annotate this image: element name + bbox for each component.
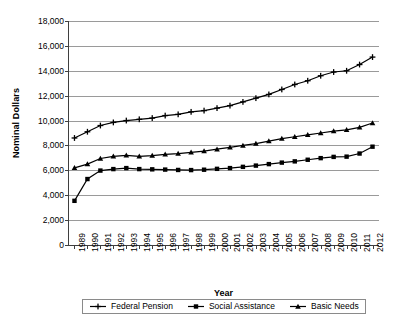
chart-figure: Nominal Dollars 18,00016,00014,00012,000… <box>0 0 397 318</box>
x-tick-mark <box>113 245 114 249</box>
x-tick-label: 1990 <box>91 233 100 252</box>
x-tick-mark <box>165 245 166 249</box>
data-point-marker <box>370 144 374 148</box>
y-tick-label: 14,000 <box>4 67 64 76</box>
data-point-marker <box>279 87 285 93</box>
x-tick-mark <box>295 245 296 249</box>
x-tick-label: 1995 <box>156 233 165 252</box>
data-point-marker <box>189 168 193 172</box>
x-tick-mark <box>334 245 335 249</box>
x-tick-label: 2000 <box>221 233 230 252</box>
data-point-marker <box>318 73 324 79</box>
x-tick-mark <box>360 245 361 249</box>
series-line <box>74 123 372 168</box>
legend-label: Federal Pension <box>111 302 173 311</box>
data-series-layer <box>68 21 379 245</box>
y-tick-label: 0 <box>4 241 64 250</box>
data-point-marker <box>293 159 297 163</box>
data-point-marker <box>175 111 181 117</box>
x-tick-label: 1996 <box>169 233 178 252</box>
legend-item-basic-needs[interactable]: Basic Needs <box>289 302 359 311</box>
data-point-marker <box>215 167 219 171</box>
data-point-marker <box>85 177 89 181</box>
y-tick-label: 18,000 <box>4 17 64 26</box>
legend-item-social-assistance[interactable]: Social Assistance <box>187 302 275 311</box>
x-tick-label: 2011 <box>363 234 372 252</box>
x-tick-label: 2004 <box>272 233 281 252</box>
series-line <box>74 57 372 138</box>
series-federal-pension <box>72 54 376 141</box>
data-point-marker <box>292 82 298 88</box>
x-tick-mark <box>308 245 309 249</box>
y-tick-label: 6,000 <box>4 166 64 175</box>
x-tick-label: 2006 <box>298 233 307 252</box>
x-tick-label: 2002 <box>246 233 255 252</box>
data-point-marker <box>318 156 322 160</box>
data-point-marker <box>163 167 167 171</box>
x-tick-mark <box>100 245 101 249</box>
x-tick-mark <box>373 245 374 249</box>
x-tick-label: 1999 <box>208 233 217 252</box>
data-point-marker <box>331 69 337 75</box>
series-line <box>74 147 372 201</box>
chart-legend: Federal PensionSocial AssistanceBasic Ne… <box>82 299 366 314</box>
data-point-marker <box>124 166 128 170</box>
data-point-marker <box>110 120 116 126</box>
data-point-marker <box>85 129 91 135</box>
x-tick-label: 2012 <box>376 233 385 252</box>
y-tick-label: 12,000 <box>4 92 64 101</box>
x-tick-mark <box>321 245 322 249</box>
x-tick-mark <box>282 245 283 249</box>
data-point-marker <box>201 108 207 114</box>
x-tick-label: 2009 <box>337 233 346 252</box>
data-point-marker <box>357 151 361 155</box>
x-tick-mark <box>152 245 153 249</box>
data-point-marker <box>188 109 194 115</box>
x-tick-mark <box>256 245 257 249</box>
x-tick-label: 2010 <box>350 233 359 252</box>
y-tick-label: 8,000 <box>4 141 64 150</box>
x-tick-mark <box>243 245 244 249</box>
y-tick-label: 2,000 <box>4 216 64 225</box>
legend-label: Basic Needs <box>311 302 359 311</box>
x-tick-label: 2007 <box>311 233 320 252</box>
data-point-marker <box>253 95 259 101</box>
x-tick-mark <box>269 245 270 249</box>
plot-area: 18,00016,00014,00012,00010,0008,0006,000… <box>68 21 379 245</box>
x-tick-label: 1993 <box>130 233 139 252</box>
x-tick-label: 1991 <box>104 233 113 252</box>
data-point-marker <box>150 167 154 171</box>
data-point-marker <box>344 154 348 158</box>
data-point-marker <box>176 168 180 172</box>
x-tick-label: 2001 <box>233 233 242 252</box>
x-tick-mark <box>230 245 231 249</box>
data-point-marker <box>266 92 272 98</box>
data-point-marker <box>306 158 310 162</box>
data-point-marker <box>123 118 129 124</box>
x-tick-mark <box>204 245 205 249</box>
data-point-marker <box>240 99 246 105</box>
x-tick-mark <box>178 245 179 249</box>
data-point-marker <box>331 155 335 159</box>
data-point-marker <box>227 103 233 109</box>
data-point-marker <box>280 160 284 164</box>
y-tick-label: 4,000 <box>4 191 64 200</box>
y-tick-label: 10,000 <box>4 117 64 126</box>
x-tick-mark <box>347 245 348 249</box>
data-point-marker <box>267 162 271 166</box>
data-point-marker <box>241 165 245 169</box>
data-point-marker <box>305 78 311 84</box>
data-point-marker <box>72 199 76 203</box>
x-tick-label: 1989 <box>78 233 87 252</box>
x-tick-label: 1997 <box>182 233 191 252</box>
plus-marker-icon <box>89 302 107 311</box>
data-point-marker <box>370 120 376 125</box>
legend-label: Social Assistance <box>209 302 275 311</box>
data-point-marker <box>162 113 168 119</box>
series-basic-needs <box>72 120 376 170</box>
data-point-marker <box>137 167 141 171</box>
legend-item-federal-pension[interactable]: Federal Pension <box>89 302 173 311</box>
data-point-marker <box>149 115 155 121</box>
triangle-marker-icon <box>289 302 307 311</box>
x-tick-mark <box>217 245 218 249</box>
